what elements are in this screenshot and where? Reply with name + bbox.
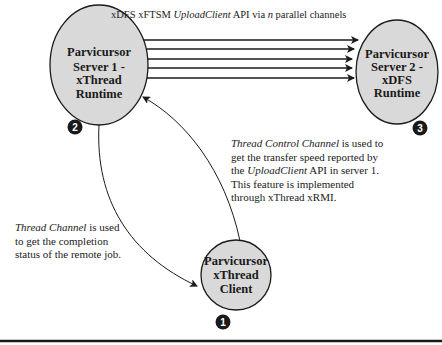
- badge-2-label: 2: [72, 122, 78, 133]
- caption-suffix: parallel channels: [273, 9, 346, 20]
- badge-3-label: 3: [417, 123, 423, 134]
- caption-prefix: xDFS xFTSM: [111, 9, 173, 20]
- thread-control-api-name: UploadClient: [247, 164, 307, 176]
- server1-line-4: Runtime: [76, 87, 123, 101]
- client-line-3: Client: [220, 282, 253, 296]
- thread-channel-arrow: [99, 125, 197, 286]
- badge-2: 2: [68, 120, 83, 135]
- server2-line-2: Server 2 -: [371, 60, 423, 74]
- badge-1-label: 1: [220, 317, 226, 328]
- thread-channel-title: Thread Channel: [15, 221, 86, 233]
- thread-control-channel-note: Thread Control Channel is used to get th…: [231, 137, 391, 205]
- server1-line-2: Server 1 -: [73, 60, 125, 74]
- server2-line-4: Runtime: [374, 86, 421, 100]
- caption-middle: API via: [231, 9, 268, 20]
- parallel-channels: [138, 40, 358, 78]
- server2-line-1: Parvicursor: [365, 47, 429, 61]
- thread-control-channel-arrow: [143, 97, 240, 241]
- badge-1: 1: [216, 315, 231, 330]
- thread-control-title: Thread Control Channel: [231, 137, 339, 149]
- server2-line-3: xDFS: [382, 73, 412, 87]
- node-client: Parvicursor xThread Client: [201, 240, 271, 310]
- parallel-channels-caption: xDFS xFTSM UploadClient API via n parall…: [111, 9, 346, 20]
- thread-channel-note: Thread Channel is used to get the comple…: [15, 221, 130, 262]
- server1-line-1: Parvicursor: [67, 45, 131, 59]
- server1-line-3: xThread: [76, 73, 122, 87]
- caption-api-name: UploadClient: [173, 9, 230, 20]
- node-server-1: Parvicursor Server 1 - xThread Runtime: [50, 5, 148, 125]
- badge-3: 3: [413, 121, 428, 136]
- client-line-2: xThread: [213, 268, 259, 282]
- client-line-1: Parvicursor: [204, 254, 268, 268]
- node-server-2: Parvicursor Server 2 - xDFS Runtime: [356, 20, 438, 124]
